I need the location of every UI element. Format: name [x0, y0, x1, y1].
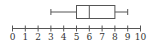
axis-tick-label: 3: [48, 32, 54, 42]
axis-tick-label: 8: [112, 32, 118, 42]
box-plot-svg: 012345678910: [0, 0, 153, 56]
axis-tick-label: 6: [86, 32, 92, 42]
axis-tick-label: 10: [135, 32, 147, 42]
axis-tick-label: 2: [35, 32, 41, 42]
axis-tick-label: 1: [22, 32, 28, 42]
axis-tick-label: 7: [99, 32, 105, 42]
axis-tick-label: 0: [10, 32, 16, 42]
axis-tick-label: 5: [74, 32, 80, 42]
number-line-axis: 012345678910: [10, 26, 147, 43]
box-and-whisker: [51, 6, 128, 19]
axis-tick-label: 9: [125, 32, 131, 42]
interquartile-box: [77, 6, 115, 19]
axis-tick-label: 4: [61, 32, 67, 42]
box-plot-chart: 012345678910: [0, 0, 153, 56]
